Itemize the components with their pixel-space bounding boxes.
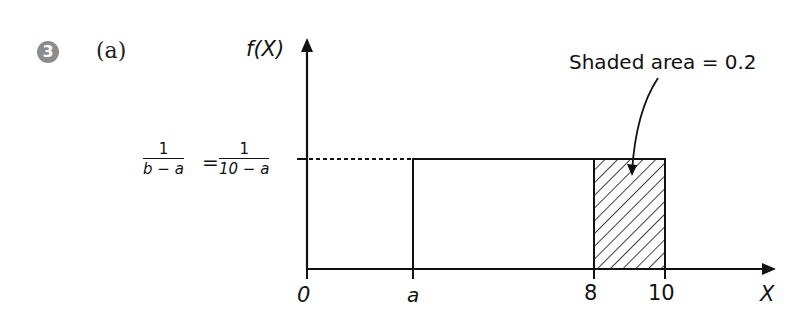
x-tick-8: 8 (584, 281, 597, 305)
shaded-region (594, 159, 665, 269)
x-axis-arrow-icon (762, 263, 776, 275)
x-tick-a: a (407, 283, 419, 307)
x-tick-10: 10 (648, 281, 675, 305)
x-axis-label: X (760, 282, 774, 306)
x-tick-0: 0 (297, 283, 310, 307)
annotation-pointer (632, 78, 658, 172)
y-axis-arrow-icon (301, 38, 313, 52)
uniform-pdf-diagram (0, 0, 798, 311)
